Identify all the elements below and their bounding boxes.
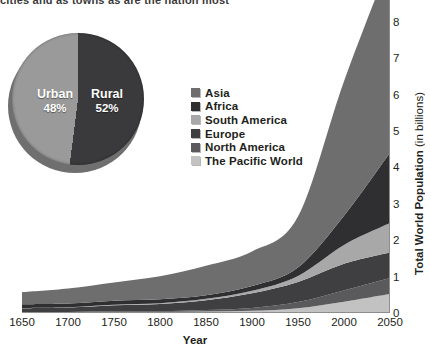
y-axis-tick-4: 4 — [393, 161, 399, 173]
y-axis-label: Total World Population (in billions) — [413, 92, 428, 275]
x-axis-tick-2050: 2050 — [377, 316, 403, 328]
x-axis-tick-1850: 1850 — [193, 316, 219, 328]
x-axis-ticks: 165017001750180018501900195020002050 — [0, 316, 430, 332]
legend-item-label: Asia — [205, 87, 230, 99]
y-axis-tick-7: 7 — [393, 52, 399, 64]
legend-swatch-icon — [191, 129, 200, 138]
x-axis-tick-1650: 1650 — [9, 316, 35, 328]
legend-item-label: The Pacific World — [205, 155, 303, 167]
x-axis-tick-1700: 1700 — [55, 316, 81, 328]
legend-item-europe: Europe — [191, 127, 303, 141]
legend-swatch-icon — [191, 88, 200, 97]
x-axis-tick-1900: 1900 — [239, 316, 265, 328]
legend-swatch-icon — [191, 102, 200, 111]
legend-item-north-america: North America — [191, 140, 303, 154]
y-axis-tick-5: 5 — [393, 125, 399, 137]
x-axis-tick-1800: 1800 — [147, 316, 173, 328]
legend-item-label: South America — [205, 114, 287, 126]
y-axis: 012345678 — [390, 0, 410, 313]
y-axis-tick-8: 8 — [393, 16, 399, 28]
legend-item-label: Africa — [205, 100, 238, 112]
y-axis-tick-6: 6 — [393, 89, 399, 101]
y-axis-label-units: (in billions) — [413, 92, 425, 147]
legend-item-africa: Africa — [191, 100, 303, 114]
x-axis-tick-1750: 1750 — [101, 316, 127, 328]
legend-item-asia: Asia — [191, 86, 303, 100]
x-axis-tick-1950: 1950 — [285, 316, 311, 328]
legend-item-south-america: South America — [191, 113, 303, 127]
y-axis-tick-1: 1 — [393, 271, 399, 283]
legend-swatch-icon — [191, 115, 200, 124]
legend-item-the-pacific-world: The Pacific World — [191, 154, 303, 168]
x-axis-label: Year — [0, 334, 390, 346]
chart-legend: AsiaAfricaSouth AmericaEuropeNorth Ameri… — [191, 86, 303, 168]
legend-swatch-icon — [191, 143, 200, 152]
legend-item-label: Europe — [205, 128, 245, 140]
legend-item-label: North America — [205, 141, 285, 153]
legend-swatch-icon — [191, 156, 200, 165]
y-axis-label-main: Total World Population — [413, 147, 425, 275]
y-axis-tick-2: 2 — [393, 234, 399, 246]
x-axis-tick-2000: 2000 — [331, 316, 357, 328]
y-axis-tick-3: 3 — [393, 198, 399, 210]
